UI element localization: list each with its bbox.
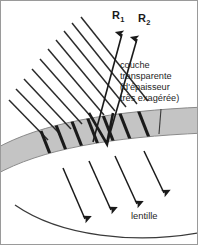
optics-coating-diagram: R1 R2 couche transparente (d'épaisseur t… — [0, 0, 198, 245]
annotation-line-2: transparente — [120, 71, 179, 82]
annotation-line-4: très exagérée) — [120, 93, 179, 104]
annotation-transparent-coating: couche transparente (d'épaisseur très ex… — [120, 60, 179, 103]
lens-surface-curve — [15, 205, 198, 238]
label-R1-subscript: 1 — [120, 15, 124, 24]
incident-ray — [40, 59, 93, 119]
incident-ray — [48, 49, 104, 115]
transmitted-ray — [63, 168, 85, 219]
diagram-canvas — [1, 1, 198, 245]
label-R2-text: R — [138, 12, 146, 24]
label-lens: lentille — [131, 210, 158, 221]
transmitted-ray — [144, 151, 164, 193]
transmitted-ray — [115, 156, 137, 204]
label-R2-subscript: 2 — [146, 18, 150, 27]
incident-ray — [56, 40, 115, 111]
label-reflected-ray-2: R2 — [138, 12, 151, 28]
transmitted-ray — [89, 161, 111, 210]
transmitted-rays — [63, 151, 164, 219]
annotation-line-1: couche — [120, 60, 179, 71]
label-R1-text: R — [112, 9, 120, 21]
label-reflected-ray-1: R1 — [112, 9, 125, 25]
annotation-line-3: (d'épaisseur — [120, 82, 179, 93]
incident-ray — [16, 89, 60, 134]
